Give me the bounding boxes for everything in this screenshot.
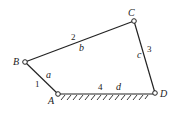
joint-b (23, 60, 28, 65)
joint-label-c: C (128, 7, 135, 18)
link-number-1: 1 (35, 79, 40, 89)
length-label-b: b (79, 42, 84, 53)
joint-label-a: A (47, 95, 55, 106)
four-bar-linkage-diagram: B A C D 1 2 3 4 a b c d (0, 0, 177, 116)
link-number-4: 4 (98, 82, 103, 92)
joint-d (153, 91, 158, 96)
length-label-d: d (116, 81, 122, 92)
length-label-a: a (46, 69, 51, 80)
joint-label-d: D (159, 88, 168, 99)
joint-c (132, 19, 137, 24)
link-1-ab (25, 62, 58, 94)
joint-a (56, 92, 61, 97)
link-number-2: 2 (71, 32, 76, 42)
length-label-c: c (137, 49, 142, 60)
ground-hatching (61, 95, 148, 100)
joint-label-b: B (13, 56, 19, 67)
link-number-3: 3 (147, 44, 152, 54)
